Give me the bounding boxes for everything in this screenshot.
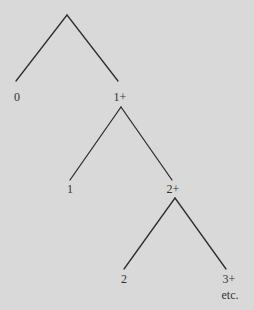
edge-root-to-1plus <box>67 15 118 81</box>
edge-root-to-0 <box>16 15 67 81</box>
continuation-label-etc: etc. <box>222 289 239 301</box>
node-label-0: 0 <box>14 91 20 103</box>
edge-2plus-to-2 <box>124 198 175 269</box>
node-label-2plus: 2+ <box>167 183 180 195</box>
edge-2plus-to-3plus <box>175 198 226 269</box>
node-label-3plus: 3+ <box>223 273 236 285</box>
binary-split-tree <box>0 0 254 310</box>
node-label-1plus: 1+ <box>114 91 127 103</box>
node-label-2: 2 <box>121 273 127 285</box>
edge-1plus-to-2plus <box>121 107 172 180</box>
node-label-1: 1 <box>67 183 73 195</box>
edge-1plus-to-1 <box>70 107 121 180</box>
